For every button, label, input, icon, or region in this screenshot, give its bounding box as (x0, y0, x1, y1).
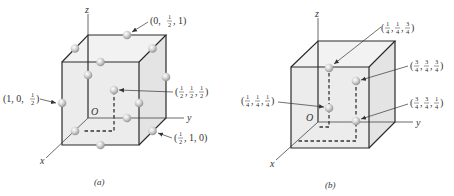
svg-text:): ) (440, 97, 443, 109)
panel-b: z y x O ( 1 4 , 1 4 , 3 4 ) ( 3 4 , 3 (241, 8, 443, 190)
svg-text:, 1, 0): , 1, 0) (184, 132, 207, 144)
svg-text:2: 2 (179, 138, 182, 145)
coord-label-b3: ( 1 4 , 1 4 , 1 4 ) (241, 93, 274, 108)
svg-text:2: 2 (168, 21, 171, 28)
atom-body-center (110, 86, 119, 95)
svg-text:(0,: (0, (150, 15, 161, 27)
svg-text:4: 4 (396, 28, 400, 35)
svg-text:1: 1 (179, 130, 182, 137)
coord-label-a2: (1, 0, 1 2 ) (3, 91, 39, 106)
svg-text:3: 3 (435, 58, 438, 65)
atom (84, 71, 93, 80)
leader-a2 (40, 99, 56, 103)
svg-text:): ) (440, 60, 443, 72)
atom (325, 104, 334, 113)
svg-text:4: 4 (435, 103, 439, 110)
svg-text:,: , (430, 97, 433, 108)
svg-text:4: 4 (406, 28, 410, 35)
svg-text:3: 3 (425, 95, 428, 102)
y-axis-label-a: y (186, 112, 192, 123)
origin-label-a: O (91, 106, 98, 117)
z-axis-label-a: z (84, 4, 89, 15)
coord-label-a3: ( 1 2 , 1 2 , 1 2 ) (175, 84, 208, 99)
svg-text:1: 1 (190, 84, 193, 91)
svg-text:1: 1 (200, 84, 203, 91)
caption-a: (a) (94, 177, 105, 187)
svg-text:4: 4 (415, 66, 419, 73)
x-axis-label-a: x (39, 155, 45, 166)
svg-text:): ) (411, 22, 414, 34)
svg-text:4: 4 (266, 101, 270, 108)
svg-text:4: 4 (435, 66, 439, 73)
svg-text:3: 3 (425, 58, 428, 65)
svg-text:1: 1 (168, 13, 171, 20)
svg-text:(: ( (175, 86, 179, 98)
unit-cell-figure: z y x O (0, 1 2 , 1) (1, 0, 1 2 ) ( 1 2 … (0, 0, 454, 196)
svg-text:3: 3 (415, 58, 418, 65)
y-axis-label-b: y (415, 117, 421, 128)
atom (123, 114, 132, 123)
atom (58, 99, 67, 108)
svg-text:2: 2 (200, 92, 203, 99)
atom (96, 141, 105, 150)
svg-text:(: ( (381, 22, 385, 34)
svg-text:1: 1 (246, 93, 249, 100)
svg-text:1: 1 (180, 84, 183, 91)
svg-text:(: ( (241, 95, 245, 107)
coord-label-b1: ( 1 4 , 1 4 , 3 4 ) (381, 20, 414, 35)
atom (352, 117, 361, 126)
svg-text:,: , (261, 95, 264, 106)
panel-a: z y x O (0, 1 2 , 1) (1, 0, 1 2 ) ( 1 2 … (3, 4, 208, 187)
coord-label-b2: ( 3 4 , 3 4 , 3 4 ) (410, 58, 443, 73)
svg-text:1: 1 (256, 93, 259, 100)
svg-text:,: , (251, 95, 254, 106)
atom (162, 73, 171, 82)
svg-text:(: ( (174, 132, 178, 144)
origin-label-b: O (306, 112, 313, 123)
svg-text:(: ( (410, 97, 414, 109)
svg-text:4: 4 (256, 101, 260, 108)
svg-text:3: 3 (415, 95, 418, 102)
svg-text:,: , (195, 86, 198, 97)
svg-text:,: , (420, 97, 423, 108)
atom (71, 44, 80, 53)
coord-label-a4: ( 1 2 , 1, 0) (174, 130, 207, 145)
svg-text:): ) (271, 95, 274, 107)
svg-text:4: 4 (415, 103, 419, 110)
svg-text:2: 2 (31, 99, 34, 106)
svg-text:4: 4 (425, 66, 429, 73)
svg-text:,: , (430, 60, 433, 71)
svg-text:4: 4 (425, 103, 429, 110)
leader-a4 (158, 133, 172, 138)
svg-text:1: 1 (435, 95, 438, 102)
svg-text:, 1): , 1) (173, 15, 186, 27)
svg-text:,: , (391, 22, 394, 33)
svg-text:,: , (185, 86, 188, 97)
svg-text:): ) (36, 93, 39, 105)
svg-text:,: , (401, 22, 404, 33)
svg-text:(1, 0,: (1, 0, (3, 93, 24, 105)
atom (325, 64, 334, 73)
caption-b: (b) (325, 180, 336, 190)
atom (148, 127, 157, 136)
atom (352, 77, 361, 86)
atom (96, 58, 105, 67)
svg-text:1: 1 (386, 20, 389, 27)
atom (135, 99, 144, 108)
svg-text:,: , (420, 60, 423, 71)
atom (123, 31, 132, 40)
coord-label-a1: (0, 1 2 , 1) (150, 13, 186, 28)
svg-text:2: 2 (190, 92, 193, 99)
x-axis-label-b: x (269, 158, 275, 169)
leader-a1 (132, 22, 148, 32)
svg-text:4: 4 (246, 101, 250, 108)
svg-text:1: 1 (396, 20, 399, 27)
z-axis-label-b: z (314, 8, 319, 19)
svg-text:3: 3 (406, 20, 409, 27)
svg-text:1: 1 (31, 91, 34, 98)
svg-text:1: 1 (266, 93, 269, 100)
svg-text:): ) (205, 86, 208, 98)
svg-text:(: ( (410, 60, 414, 72)
coord-label-b4: ( 3 4 , 3 4 , 1 4 ) (410, 95, 443, 110)
svg-text:4: 4 (386, 28, 390, 35)
